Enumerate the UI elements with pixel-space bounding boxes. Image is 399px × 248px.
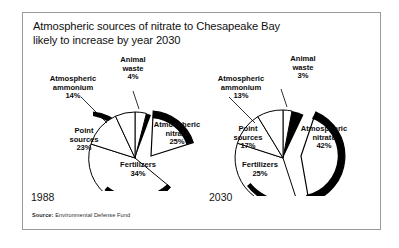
source-name: Environmental Defense Fund	[55, 212, 130, 218]
label-1988-fertilizers: Fertilizers 34%	[113, 161, 163, 178]
label-1988-nitrate: Atmospheric nitrate 25%	[148, 121, 206, 147]
pie-2030-leader-animal-waste	[281, 89, 287, 107]
source-label: Source:	[32, 212, 54, 218]
label-2030-ammonium: Atmospheric ammonium 13%	[203, 75, 279, 101]
charts-area: Atmospheric ammonium 14% Animal waste 4%…	[23, 13, 382, 231]
label-2030-animal-waste: Animal waste 3%	[279, 55, 327, 81]
pie-2030-leader-ammonium	[229, 97, 255, 123]
label-1988-ammonium: Atmospheric ammonium 14%	[35, 75, 111, 101]
label-2030-point-sources: Point sources 17%	[225, 125, 271, 151]
label-1988-animal-waste: Animal waste 4%	[109, 56, 157, 82]
label-1988-point-sources: Point sources 23%	[61, 127, 107, 153]
label-2030-fertilizers: Fertilizers 25%	[235, 161, 285, 178]
year-label-2030: 2030	[209, 191, 232, 203]
source-attribution: Source: Environmental Defense Fund	[32, 212, 130, 218]
figure-frame: Atmospheric sources of nitrate to Chesap…	[22, 12, 381, 230]
year-label-1988: 1988	[31, 191, 54, 203]
label-2030-nitrate: Atmospheric nitrate 42%	[295, 125, 353, 151]
pie-1988-leader-animal-waste	[133, 91, 139, 109]
pie-1988-leader-ammonium	[81, 97, 107, 123]
pie-1988-slice-animal-waste[interactable]	[135, 112, 146, 158]
